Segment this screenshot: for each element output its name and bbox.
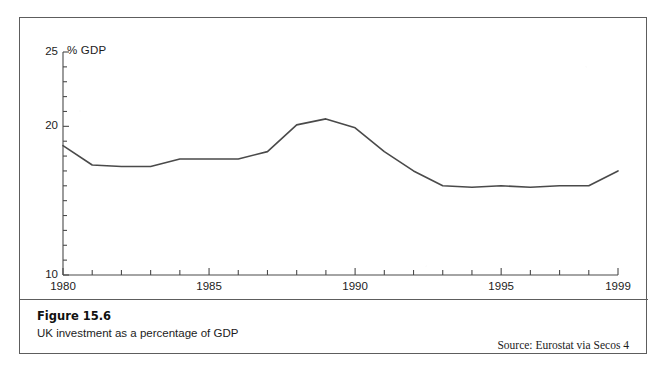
caption-block: Figure 15.6 UK investment as a percentag…	[37, 309, 631, 341]
y-tick-label-20: 20	[32, 119, 58, 131]
y-tick-label-10: 10	[32, 268, 58, 280]
plot-area: % GDP 25 20 10 1980 1985 1990 1995 1999	[20, 18, 648, 298]
line-chart	[20, 18, 648, 298]
figure-number: Figure 15.6	[37, 309, 631, 324]
x-tick-label-1990: 1990	[332, 280, 378, 292]
x-tick-label-1999: 1999	[595, 280, 641, 292]
caption-divider	[20, 299, 648, 300]
data-line	[63, 119, 618, 187]
figure-frame: % GDP 25 20 10 1980 1985 1990 1995 1999 …	[19, 17, 647, 354]
y-tick-label-25: 25	[32, 45, 58, 57]
x-tick-label-1980: 1980	[40, 280, 86, 292]
source-note: Source: Eurostat via Secos 4	[497, 339, 629, 351]
x-tick-label-1985: 1985	[186, 280, 232, 292]
x-tick-label-1995: 1995	[478, 280, 524, 292]
figure-root: % GDP 25 20 10 1980 1985 1990 1995 1999 …	[0, 0, 666, 370]
y-axis-title: % GDP	[67, 44, 106, 56]
